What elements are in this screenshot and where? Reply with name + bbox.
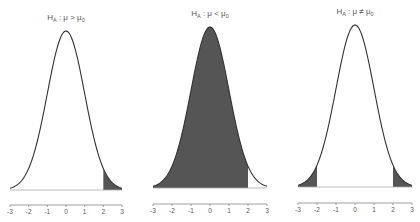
x-tick-label: -2 xyxy=(314,206,320,213)
rejection-region xyxy=(153,27,248,188)
x-tick-label: -2 xyxy=(169,207,175,214)
panel-two-sided: HA : μ ≠ μ0 -3-2-10123 xyxy=(295,7,414,213)
x-tick-label: 1 xyxy=(83,208,87,215)
panel-title: HA : μ < μ0 xyxy=(191,9,229,19)
x-tick-label: 1 xyxy=(227,207,231,214)
hypothesis-test-figure: HA : μ > μ0 -3-2-10123 HA : μ < μ0 -3-2-… xyxy=(0,0,420,222)
x-tick-label: -1 xyxy=(44,208,50,215)
x-tick-label: 1 xyxy=(372,206,376,213)
x-tick-label: 0 xyxy=(64,208,68,215)
x-tick-label: 3 xyxy=(265,207,269,214)
x-tick-label: 2 xyxy=(102,208,106,215)
x-tick-label: 0 xyxy=(208,207,212,214)
x-tick-label: 0 xyxy=(353,206,357,213)
panel-title: HA : μ ≠ μ0 xyxy=(336,7,373,17)
x-tick-label: -2 xyxy=(26,208,32,215)
x-tick-label: 2 xyxy=(246,207,250,214)
x-tick-label: -1 xyxy=(188,207,194,214)
normal-curve xyxy=(10,31,122,188)
x-tick-label: -3 xyxy=(7,208,13,215)
x-tick-label: -1 xyxy=(333,206,339,213)
x-tick-label: 2 xyxy=(391,206,395,213)
panel-upper-tail: HA : μ > μ0 -3-2-10123 xyxy=(7,13,124,215)
x-tick-label: -3 xyxy=(295,206,301,213)
x-tick-label: -3 xyxy=(150,207,156,214)
x-tick-label: 3 xyxy=(120,208,124,215)
panel-lower-tail: HA : μ < μ0 -3-2-10123 xyxy=(150,9,269,214)
x-tick-label: 3 xyxy=(410,206,414,213)
normal-curve xyxy=(298,25,412,185)
panel-title: HA : μ > μ0 xyxy=(47,13,85,23)
